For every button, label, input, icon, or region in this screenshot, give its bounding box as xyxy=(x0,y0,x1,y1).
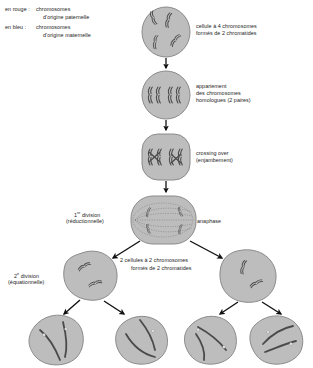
cell-anaphase xyxy=(131,196,196,244)
cell-stage-3 xyxy=(142,134,190,180)
daughter-cell-left xyxy=(64,251,117,300)
arrow-to-gamete-2 xyxy=(104,301,124,314)
arrow-anaphase-to-daughter-left xyxy=(113,241,140,258)
gamete-cell-2 xyxy=(116,316,168,364)
diagram-graphics xyxy=(0,0,313,368)
cell-stage-2 xyxy=(142,71,190,119)
cell-stage-1 xyxy=(142,7,190,57)
arrow-anaphase-to-daughter-right xyxy=(190,241,222,258)
gamete-cell-3 xyxy=(184,316,236,364)
arrow-to-gamete-1 xyxy=(64,300,80,314)
meiosis-diagram: en rouge : chromosomes d'origine paterne… xyxy=(0,0,313,368)
gamete-cell-4 xyxy=(250,316,303,364)
arrow-to-gamete-3 xyxy=(220,302,238,314)
arrow-to-gamete-4 xyxy=(262,302,281,314)
gamete-cell-1 xyxy=(29,315,83,365)
daughter-cell-right xyxy=(220,250,276,303)
